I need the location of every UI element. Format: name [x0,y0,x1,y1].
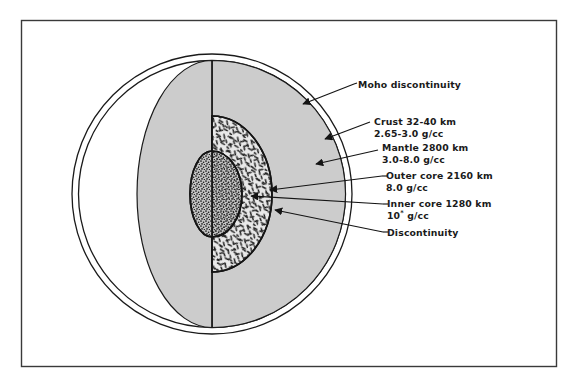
label-moho-line1: Moho discontinuity [358,79,461,90]
label-discontinuity: Discontinuity [387,227,458,239]
label-crust: Crust 32-40 km 2.65-3.0 g/cc [374,116,456,140]
label-inner-core-line2: 10* g/cc [387,210,492,222]
label-discontinuity-line1: Discontinuity [387,227,458,238]
label-inner-core-line1: Inner core 1280 km [387,198,492,209]
label-inner-core-density-unit: g/cc [404,210,429,221]
label-mantle-line1: Mantle 2800 km [382,142,468,153]
label-moho-discontinuity: Moho discontinuity [358,79,461,91]
label-crust-line2: 2.65-3.0 g/cc [374,128,456,140]
tail-moho [354,83,357,84]
label-mantle-line2: 3.0-8.0 g/cc [382,154,468,166]
earth-diagram-svg [0,0,583,391]
label-inner-core-density-base: 10 [387,210,400,221]
earth-structure-figure: Moho discontinuity Crust 32-40 km 2.65-3… [0,0,583,391]
label-mantle: Mantle 2800 km 3.0-8.0 g/cc [382,142,468,166]
label-outer-core-line1: Outer core 2160 km [386,170,493,181]
label-inner-core: Inner core 1280 km 10* g/cc [387,198,492,222]
label-outer-core-line2: 8.0 g/cc [386,182,493,194]
label-outer-core: Outer core 2160 km 8.0 g/cc [386,170,493,194]
label-crust-line1: Crust 32-40 km [374,116,456,127]
